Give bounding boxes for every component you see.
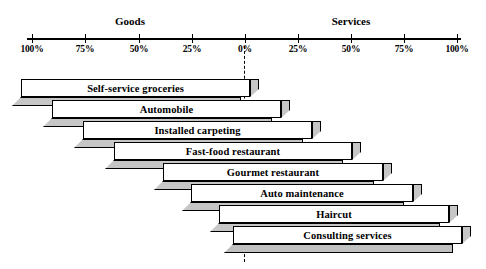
bar-row[interactable]: Auto maintenance: [191, 184, 413, 202]
axis-tick-5: [298, 34, 299, 43]
bar-side-face: [312, 121, 321, 139]
axis-tick-label-6: 50%: [331, 44, 371, 54]
bar-label: Self-service groceries: [21, 79, 250, 97]
axis-tick-0: [32, 34, 33, 43]
bar-side-face: [383, 163, 392, 181]
bar-side-face: [352, 142, 361, 160]
axis-tick-label-5: 25%: [278, 44, 318, 54]
bar-label: Gourmet restaurant: [163, 163, 383, 181]
bar-row[interactable]: Automobile: [52, 100, 281, 118]
bar-row[interactable]: Haircut: [219, 205, 449, 223]
bar-side-face: [250, 79, 259, 97]
axis-tick-1: [85, 34, 86, 43]
axis-tick-label-7: 75%: [384, 44, 424, 54]
bar-side-face: [449, 205, 458, 223]
axis-tick-label-1: 75%: [65, 44, 105, 54]
bar-row[interactable]: Self-service groceries: [21, 79, 250, 97]
axis-tick-label-0: 100%: [12, 44, 52, 54]
chart-canvas: Goods Services 100%75%50%25%0%25%50%75%1…: [0, 0, 486, 269]
bar-label: Fast-food restaurant: [114, 142, 352, 160]
bar-label: Installed carpeting: [83, 121, 312, 139]
axis-tick-label-4: 0%: [225, 44, 265, 54]
axis-tick-7: [404, 34, 405, 43]
axis-tick-label-2: 50%: [119, 44, 159, 54]
bar-label: Auto maintenance: [191, 184, 413, 202]
axis-tick-3: [192, 34, 193, 43]
bar-label: Automobile: [52, 100, 281, 118]
bar-label: Haircut: [219, 205, 449, 223]
bar-side-face: [413, 184, 422, 202]
axis-line: [27, 38, 461, 40]
axis-tick-4: [245, 34, 246, 43]
axis-tick-label-3: 25%: [172, 44, 212, 54]
axis-tick-6: [351, 34, 352, 43]
bar-label: Consulting services: [233, 226, 462, 244]
axis-tick-2: [139, 34, 140, 43]
axis-tick-label-8: 100%: [437, 44, 477, 54]
bar-side-face: [462, 226, 471, 244]
bar-row[interactable]: Installed carpeting: [83, 121, 312, 139]
bar-row[interactable]: Consulting services: [233, 226, 462, 244]
axis-group-label-goods: Goods: [70, 15, 190, 27]
bar-bottom-face: [224, 244, 453, 253]
axis-tick-8: [457, 34, 458, 43]
axis-group-label-services: Services: [291, 15, 411, 27]
bar-side-face: [281, 100, 290, 118]
bar-row[interactable]: Gourmet restaurant: [163, 163, 383, 181]
bar-row[interactable]: Fast-food restaurant: [114, 142, 352, 160]
